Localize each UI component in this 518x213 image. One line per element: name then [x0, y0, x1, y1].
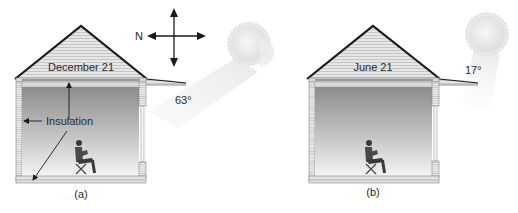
panel-caption-b: (b) — [366, 186, 379, 198]
panel-caption-a: (a) — [74, 188, 87, 200]
house-wall-right-lower — [432, 161, 439, 178]
compass-north-label: N — [135, 30, 143, 42]
house-floor — [309, 176, 439, 183]
sunlight-beam — [462, 48, 500, 110]
window — [434, 106, 437, 161]
sun-icon — [260, 38, 274, 66]
sunlight-beam — [148, 58, 258, 128]
house-wall-left — [16, 82, 22, 182]
window — [141, 106, 144, 162]
passive-solar-diagram: December 21 Insulation 63° (a) N — [0, 0, 518, 213]
sun-angle-label-a: 63° — [175, 94, 192, 106]
panel-a: December 21 Insulation 63° (a) — [15, 23, 270, 200]
house-wall-right-upper — [139, 82, 146, 106]
panel-b: June 21 17° (b) — [307, 13, 508, 198]
date-label-june: June 21 — [353, 61, 392, 73]
house-wall-right-upper — [432, 82, 439, 106]
sun-angle-label-b: 17° — [465, 64, 482, 76]
date-label-december: December 21 — [48, 61, 114, 73]
house-wall-left — [309, 82, 315, 182]
sun-icon — [466, 13, 508, 55]
insulation-label: Insulation — [46, 115, 93, 127]
compass-icon: N — [135, 8, 206, 67]
house-wall-right-lower — [139, 162, 146, 178]
